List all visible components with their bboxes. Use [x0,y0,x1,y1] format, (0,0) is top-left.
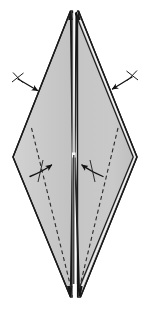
origami-diagram-figure: Origami diagram: diamond base with inwar… [0,0,151,309]
origami-illustration [0,0,151,309]
bottom-tip-gap [73,284,77,300]
